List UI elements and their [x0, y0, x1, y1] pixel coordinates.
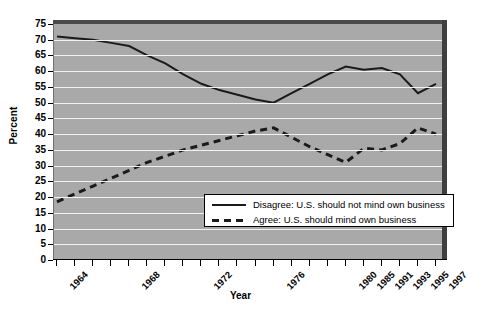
legend-item: Agree: U.S. should mind own business [205, 212, 455, 227]
y-tick-label: 40 [20, 129, 46, 139]
x-tick-mark [56, 260, 57, 266]
series-line-1 [57, 37, 436, 103]
x-axis-line [53, 259, 447, 260]
gridline [54, 103, 442, 104]
x-tick-mark [182, 260, 183, 266]
gridline [54, 244, 442, 245]
gridline [54, 181, 442, 182]
x-tick-label: 1976 [284, 269, 307, 292]
y-tick-label: 75 [20, 19, 46, 29]
x-tick-mark [327, 260, 328, 266]
y-tick-label: 65 [20, 50, 46, 60]
y-tick-label: 70 [20, 35, 46, 45]
y-tick-label: 45 [20, 113, 46, 123]
x-tick-mark [218, 260, 219, 266]
gridline [54, 166, 442, 167]
gridline [54, 229, 442, 230]
x-tick-mark [92, 260, 93, 266]
y-axis-title: Percent [8, 91, 19, 161]
gridline [54, 55, 442, 56]
legend-item: Disagree: U.S. should not mind own busin… [205, 197, 455, 212]
x-tick-mark [399, 260, 400, 266]
x-tick-mark [128, 260, 129, 266]
x-tick-label: 1972 [212, 269, 235, 292]
gridline [54, 87, 442, 88]
x-tick-mark [164, 260, 165, 266]
x-axis-title: Year [0, 290, 481, 301]
legend-label: Disagree: U.S. should not mind own busin… [253, 199, 445, 210]
x-tick-label: 1964 [67, 269, 90, 292]
x-tick-mark [146, 260, 147, 266]
x-tick-label: 1980 [356, 269, 379, 292]
x-tick-mark [309, 260, 310, 266]
x-tick-label: 1991 [392, 269, 415, 292]
x-tick-label: 1968 [139, 269, 162, 292]
gridline [54, 118, 442, 119]
y-tick-label: 50 [20, 98, 46, 108]
y-tick-label: 0 [20, 255, 46, 265]
x-tick-label: 1997 [446, 269, 469, 292]
legend-box: Disagree: U.S. should not mind own busin… [204, 194, 454, 227]
x-tick-mark [417, 260, 418, 266]
line-chart: Percent Year 051015202530354045505560657… [0, 0, 481, 312]
x-tick-mark [273, 260, 274, 266]
dashed-line-swatch-icon [212, 213, 246, 227]
series-line-2 [57, 128, 436, 202]
y-tick-label: 35 [20, 145, 46, 155]
x-tick-mark [435, 260, 436, 266]
y-tick-label: 30 [20, 161, 46, 171]
solid-line-swatch-icon [212, 198, 246, 212]
x-tick-label: 1993 [410, 269, 433, 292]
x-tick-label: 1985 [374, 269, 397, 292]
x-tick-label: 1995 [428, 269, 451, 292]
x-tick-mark [200, 260, 201, 266]
x-tick-mark [236, 260, 237, 266]
gridline [54, 40, 442, 41]
y-tick-label: 25 [20, 176, 46, 186]
y-tick-label: 55 [20, 82, 46, 92]
y-tick-label: 20 [20, 192, 46, 202]
y-tick-label: 60 [20, 66, 46, 76]
y-tick-label: 10 [20, 224, 46, 234]
y-tick-label: 5 [20, 239, 46, 249]
x-tick-mark [255, 260, 256, 266]
y-tick-label: 15 [20, 208, 46, 218]
y-tick-mark [48, 260, 53, 261]
gridline [54, 134, 442, 135]
x-tick-mark [74, 260, 75, 266]
legend-label: Agree: U.S. should mind own business [253, 214, 416, 225]
gridline [54, 71, 442, 72]
gridline [54, 150, 442, 151]
x-tick-mark [110, 260, 111, 266]
x-tick-mark [345, 260, 346, 266]
x-tick-mark [381, 260, 382, 266]
x-tick-mark [291, 260, 292, 266]
x-tick-mark [363, 260, 364, 266]
